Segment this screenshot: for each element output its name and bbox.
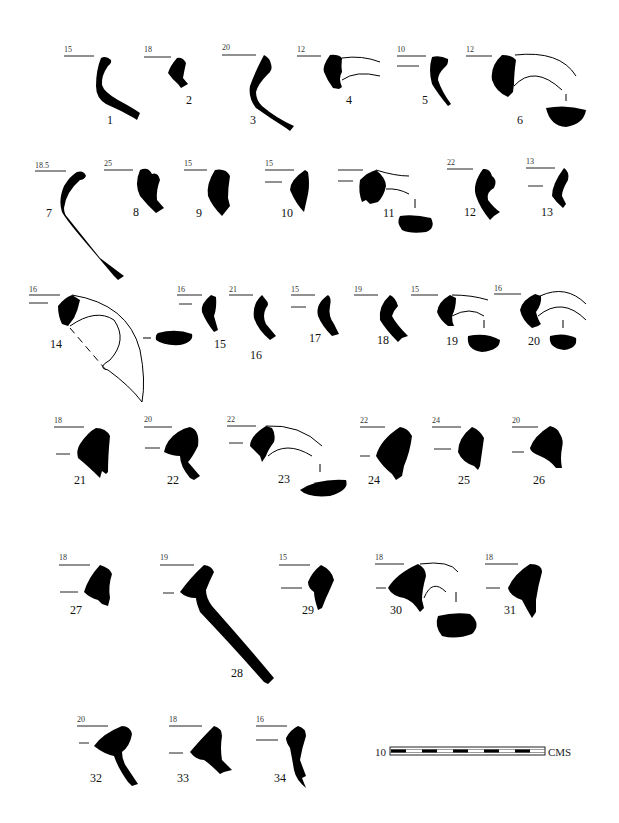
figure-number: 22 <box>167 473 179 487</box>
diameter-label: 22 <box>447 158 455 167</box>
profile-3: 20 3 <box>222 43 294 131</box>
diameter-label: 12 <box>466 45 474 54</box>
figure-number: 23 <box>278 472 290 486</box>
diameter-label: 15 <box>265 159 273 168</box>
diameter-label: 22 <box>227 415 235 424</box>
figure-number: 9 <box>196 206 202 220</box>
diameter-label: 12 <box>297 45 305 54</box>
figure-number: 12 <box>464 205 476 219</box>
figure-number: 5 <box>422 93 428 107</box>
figure-number: 10 <box>281 206 293 220</box>
diameter-label: 25 <box>104 159 112 168</box>
profile-26: 20 26 <box>512 416 563 487</box>
profile-13: 13 13 <box>526 157 569 219</box>
diameter-label: 18 <box>485 553 493 562</box>
figure-number: 33 <box>177 771 189 785</box>
profile-8: 25 8 <box>104 159 164 219</box>
diameter-label: 13 <box>526 157 534 166</box>
scale-bar: 10 CMS <box>375 746 571 758</box>
diameter-label: 20 <box>77 715 85 724</box>
diameter-label: 15 <box>279 553 287 562</box>
diameter-label: 15 <box>411 285 419 294</box>
scale-value: 10 <box>375 746 387 758</box>
profile-17: 15 17 <box>291 285 339 345</box>
figure-number: 17 <box>309 331 321 345</box>
figure-number: 32 <box>90 771 102 785</box>
figure-number: 14 <box>50 337 62 351</box>
figure-number: 4 <box>346 93 352 107</box>
diameter-label: 10 <box>397 45 405 54</box>
profile-24: 22 24 <box>360 416 412 487</box>
diameter-label: 15 <box>64 45 72 54</box>
profile-4: 12 4 <box>297 45 380 107</box>
profile-25: 24 25 <box>432 416 484 487</box>
diameter-label: 18 <box>59 553 67 562</box>
figure-number: 2 <box>186 93 192 107</box>
diameter-label: 22 <box>360 416 368 425</box>
figure-number: 18 <box>377 333 389 347</box>
figure-number: 15 <box>214 337 226 351</box>
profile-2: 18 2 <box>144 45 192 107</box>
profile-5: 10 5 <box>397 45 451 107</box>
profile-31: 18 31 <box>485 553 542 618</box>
profile-20: 16 20 <box>494 284 586 350</box>
figure-number: 3 <box>250 113 256 127</box>
profile-19: 15 19 <box>411 285 500 352</box>
figure-number: 30 <box>390 603 402 617</box>
diameter-label: 16 <box>256 715 264 724</box>
diameter-label: 24 <box>432 416 440 425</box>
figure-number: 34 <box>274 771 286 785</box>
diameter-label: 16 <box>494 284 502 293</box>
profile-10: 15 10 <box>265 159 309 220</box>
profile-27: 18 27 <box>59 553 112 617</box>
diameter-label: 16 <box>29 285 37 294</box>
diameter-label: 18 <box>169 715 177 724</box>
figure-number: 16 <box>250 348 262 362</box>
diameter-label: 20 <box>512 416 520 425</box>
figure-number: 6 <box>517 113 523 127</box>
profile-23: 22 23 <box>227 415 347 496</box>
profile-6: 12 6 <box>466 45 586 127</box>
profile-1: 15 1 <box>64 45 140 127</box>
diameter-label: 18 <box>54 416 62 425</box>
diameter-label: 19 <box>354 285 362 294</box>
profile-9: 15 9 <box>184 159 230 220</box>
diameter-label: 15 <box>184 159 192 168</box>
profile-16: 21 16 <box>229 285 276 362</box>
diameter-label: 18.5 <box>35 161 49 170</box>
figure-number: 28 <box>231 666 243 680</box>
figure-number: 21 <box>74 473 86 487</box>
figure-number: 19 <box>446 334 458 348</box>
figure-number: 26 <box>533 473 545 487</box>
pottery-plate: 15 1 18 2 20 3 12 4 10 5 12 <box>0 0 619 823</box>
profile-12: 22 12 <box>447 158 500 220</box>
diameter-label: 20 <box>222 43 230 52</box>
figure-number: 7 <box>46 206 52 220</box>
figure-number: 27 <box>70 603 82 617</box>
profile-33: 18 33 <box>169 715 232 785</box>
figure-number: 29 <box>302 603 314 617</box>
figure-number: 11 <box>383 206 395 220</box>
figure-number: 20 <box>528 334 540 348</box>
figure-number: 31 <box>504 603 516 617</box>
profile-14: 16 14 <box>29 285 192 402</box>
profile-34: 16 34 <box>256 715 306 788</box>
profile-29: 15 29 <box>279 553 334 617</box>
profile-21: 18 21 <box>54 416 110 487</box>
figure-number: 8 <box>133 205 139 219</box>
profile-32: 20 32 <box>77 715 138 786</box>
profile-28: 19 28 <box>160 553 274 684</box>
figure-number: 24 <box>368 473 380 487</box>
diameter-label: 21 <box>229 285 237 294</box>
profile-22: 20 22 <box>144 415 200 487</box>
diameter-label: 18 <box>144 45 152 54</box>
figure-number: 1 <box>107 113 113 127</box>
diameter-label: 15 <box>291 285 299 294</box>
diameter-label: 16 <box>177 285 185 294</box>
diameter-label: 18 <box>375 553 383 562</box>
scale-unit: CMS <box>548 746 571 758</box>
profile-11: 11 <box>338 170 433 233</box>
figure-number: 25 <box>458 473 470 487</box>
diameter-label: 19 <box>160 553 168 562</box>
diameter-label: 20 <box>144 415 152 424</box>
